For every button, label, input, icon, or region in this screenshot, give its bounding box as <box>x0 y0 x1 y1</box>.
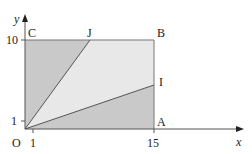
x-tick-label-1: 1 <box>30 136 36 150</box>
point-label-i: I <box>159 75 163 89</box>
point-label-j: J <box>87 26 92 40</box>
y-axis-arrow-icon <box>22 14 28 22</box>
point-label-c: C <box>28 26 36 40</box>
y-tick-label-10: 10 <box>6 33 18 47</box>
point-label-a: A <box>157 115 166 129</box>
origin-label: O <box>12 136 21 150</box>
x-tick-label-15: 15 <box>147 136 159 150</box>
diagram-canvas: y x O 10 1 1 15 C J B I A <box>0 0 252 154</box>
y-tick-label-1: 1 <box>11 114 17 128</box>
y-axis-label: y <box>13 12 20 26</box>
x-axis-arrow-icon <box>236 126 244 132</box>
x-axis-label: x <box>235 135 242 149</box>
point-label-b: B <box>157 26 165 40</box>
